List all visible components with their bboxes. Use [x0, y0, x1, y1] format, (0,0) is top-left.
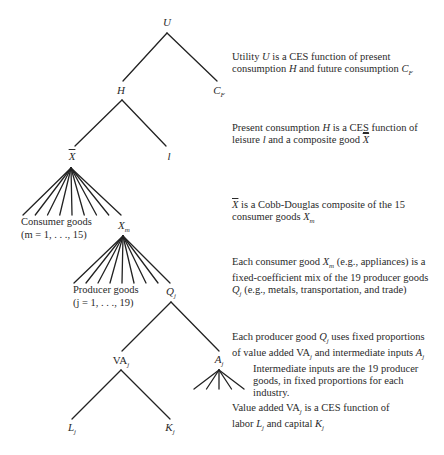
description-value-added: Value added VAj is a CES function of lab…: [232, 402, 390, 434]
description-composite-good: X is a Cobb-Douglas composite of the 15 …: [232, 199, 405, 227]
node-intermediate-inputs-Aj: Aj: [215, 353, 224, 368]
description-producer-good: Each producer good Qj uses fixed proport…: [232, 331, 425, 363]
node-value-added-VAj: VAj: [113, 354, 129, 369]
node-present-consumption-H: H: [117, 84, 125, 96]
description-utility: Utility U is a CES function of present c…: [232, 51, 413, 79]
consumer-goods-label: Consumer goods (m = 1, . . ., 15): [21, 216, 92, 241]
node-producer-good-Qj: Qj: [166, 285, 176, 300]
node-leisure-l: l: [167, 150, 170, 162]
description-present-consumption: Present consumption H is a CES function …: [232, 122, 418, 146]
description-consumer-good: Each consumer good Xm (e.g., appliances)…: [232, 256, 428, 300]
description-intermediate-inputs: Intermediate inputs are the 19 producer …: [253, 363, 418, 399]
node-future-consumption-CF: CF: [213, 84, 225, 99]
node-consumer-good-Xm: Xm: [118, 219, 130, 234]
producer-goods-label: Producer goods (j = 1, . . ., 19): [73, 284, 139, 309]
node-composite-good-Xbar: X: [69, 150, 76, 162]
node-capital-Kj: Kj: [165, 421, 174, 436]
node-labor-Lj: Lj: [68, 421, 76, 436]
node-utility-U: U: [163, 16, 171, 28]
